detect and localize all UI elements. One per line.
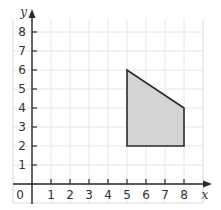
y-tick-label: 2	[18, 139, 26, 153]
x-tick-label: 6	[142, 188, 150, 202]
y-tick-label: 8	[18, 25, 26, 39]
x-tick-label: 5	[123, 188, 131, 202]
tick-labels: 12345678123456780xy	[16, 5, 208, 202]
y-tick-label: 7	[18, 44, 26, 58]
x-tick-label: 8	[180, 188, 188, 202]
y-axis-arrow-icon	[29, 9, 36, 18]
x-tick-label: 3	[85, 188, 93, 202]
origin-label: 0	[16, 188, 24, 202]
x-tick-label: 7	[161, 188, 169, 202]
x-tick-label: 4	[104, 188, 112, 202]
y-tick-label: 6	[18, 63, 26, 77]
x-axis-label: x	[202, 188, 209, 202]
y-axis-label: y	[19, 5, 27, 19]
y-tick-label: 4	[18, 101, 26, 115]
coordinate-grid: 12345678123456780xy	[0, 0, 221, 210]
x-tick-label: 2	[66, 188, 74, 202]
x-tick-label: 1	[47, 188, 55, 202]
y-tick-label: 3	[18, 120, 26, 134]
shaded-quadrilateral	[127, 70, 184, 146]
y-tick-label: 1	[18, 158, 26, 172]
x-axis-arrow-icon	[203, 181, 212, 188]
y-tick-label: 5	[18, 82, 26, 96]
